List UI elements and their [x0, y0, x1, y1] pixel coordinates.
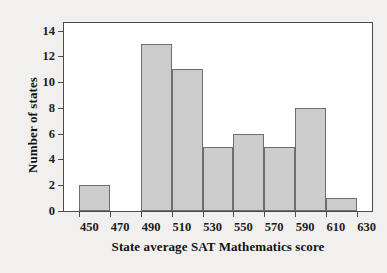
x-axis-tick [172, 211, 173, 217]
y-axis-tick [58, 185, 64, 186]
histogram-bar [79, 185, 110, 211]
histogram-bar [264, 147, 295, 211]
histogram-bar [141, 44, 172, 211]
x-axis-tick [141, 211, 142, 217]
x-axis-tick-label: 530 [203, 221, 222, 234]
y-axis-tick-label: 14 [43, 24, 56, 37]
x-axis-tick [326, 211, 327, 217]
bars-layer [64, 23, 372, 211]
histogram-bar [233, 134, 264, 211]
y-axis-tick-label: 0 [49, 205, 55, 218]
y-axis-tick [58, 56, 64, 57]
y-axis-tick [58, 159, 64, 160]
plot-area: 02468101214 4504704905105305505705906106… [63, 22, 373, 212]
x-axis-tick-label: 590 [296, 221, 315, 234]
x-axis-title: State average SAT Mathematics score [63, 239, 373, 255]
y-axis-tick-label: 8 [49, 102, 55, 115]
y-axis-tick [58, 31, 64, 32]
x-axis-tick-label: 450 [80, 221, 99, 234]
histogram-bar [295, 108, 326, 211]
y-axis-tick-label: 4 [49, 153, 55, 166]
histogram-bar [172, 69, 203, 211]
x-axis-tick-label: 470 [111, 221, 130, 234]
x-axis-tick [295, 211, 296, 217]
y-axis-tick [58, 108, 64, 109]
x-axis-tick-label: 490 [142, 221, 161, 234]
y-axis-tick [58, 211, 64, 212]
y-axis-tick-label: 6 [49, 127, 55, 140]
histogram-bar [203, 147, 234, 211]
y-axis-title: Number of states [25, 30, 41, 220]
x-axis-tick-label: 610 [326, 221, 345, 234]
x-axis-tick [79, 211, 80, 217]
x-axis-tick-label: 570 [265, 221, 284, 234]
y-axis-tick [58, 134, 64, 135]
x-axis-tick-label: 510 [172, 221, 191, 234]
x-axis-tick [357, 211, 358, 217]
y-axis-tick-label: 2 [49, 179, 55, 192]
y-axis-tick [58, 82, 64, 83]
y-axis-tick-label: 10 [43, 76, 56, 89]
y-axis-tick-label: 12 [43, 50, 56, 63]
x-axis-tick [233, 211, 234, 217]
histogram-bar [326, 198, 357, 211]
x-axis-tick [110, 211, 111, 217]
x-axis-tick [264, 211, 265, 217]
histogram-figure: 02468101214 4504704905105305505705906106… [0, 0, 387, 273]
x-axis-tick-label: 630 [357, 221, 376, 234]
x-axis-tick [203, 211, 204, 217]
x-axis-tick-label: 550 [234, 221, 253, 234]
